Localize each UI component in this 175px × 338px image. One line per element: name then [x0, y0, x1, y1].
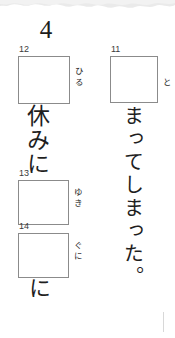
- furigana-reading: ひる: [71, 67, 84, 89]
- section-number: 4: [33, 17, 59, 43]
- scan-edge-artifact: [0, 0, 175, 14]
- blank-number-label: 12: [19, 45, 29, 54]
- worksheet-page: 4 11 と まってしまった。 12 ひる 休みに 13 ゆき 14 ぐに に: [0, 0, 175, 338]
- blank-number-label: 13: [19, 169, 29, 178]
- vertical-text-run-left-upper: 休みに: [25, 104, 48, 176]
- blank-box[interactable]: [18, 233, 69, 278]
- page-rule-mark: [163, 312, 164, 332]
- furigana-reading: ゆき: [70, 188, 83, 210]
- blank-box[interactable]: [18, 180, 69, 225]
- furigana-reading: と: [159, 78, 172, 89]
- furigana-reading: ぐに: [70, 241, 83, 263]
- vertical-text-run-left-lower: に: [26, 277, 48, 300]
- blank-number-label: 14: [19, 222, 29, 231]
- vertical-text-run-right: まってしまった。: [119, 105, 145, 289]
- blank-number-label: 11: [111, 45, 120, 54]
- blank-box[interactable]: [110, 56, 158, 103]
- blank-box[interactable]: [18, 56, 70, 104]
